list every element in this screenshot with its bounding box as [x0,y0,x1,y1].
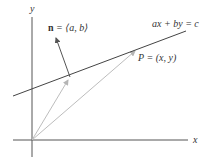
line-ax-by-c [13,31,186,96]
position-vector-to-line-foot [32,80,68,140]
normal-line-diagram: y x n = ⟨a, b⟩ ax + by = c P = (x, y) [0,0,211,159]
normal-vector-label: n = ⟨a, b⟩ [48,22,88,33]
normal-components: = ⟨a, b⟩ [54,22,89,33]
x-axis-label: x [192,134,198,145]
normal-vector-arrow [56,38,70,77]
line-equation-label: ax + by = c [152,18,199,29]
position-vector-to-p [32,51,135,140]
y-axis-label: y [29,3,35,14]
point-p-label: P = (x, y) [137,52,177,64]
